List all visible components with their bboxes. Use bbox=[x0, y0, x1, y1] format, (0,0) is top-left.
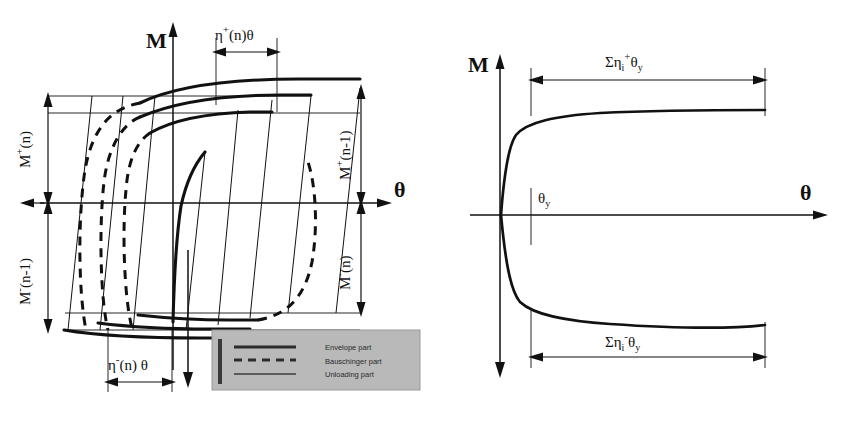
left-m-axis-label: M bbox=[146, 28, 167, 53]
right-vertical-dimensions-left-panel: M+(n-1) M-(n) bbox=[333, 84, 366, 317]
left-panel: M θ bbox=[13, 22, 420, 392]
left-unloading-branches bbox=[68, 88, 360, 330]
dim-arrow-top-right bbox=[267, 48, 281, 57]
dim-arrow-origin-left bbox=[20, 199, 34, 208]
m-plus-n1-label-group: M+(n-1) bbox=[333, 130, 354, 180]
sum-eta-minus-theta-y-label: Σηi-θy bbox=[605, 330, 640, 353]
left-theta-axis-label: θ bbox=[394, 177, 405, 202]
right-dim-arrow-bottom-left bbox=[528, 353, 543, 362]
left-bottom-dimension: η-(n) θ bbox=[104, 330, 176, 392]
envelope-part-rising-core bbox=[173, 152, 205, 322]
eta-plus-top-label: η+(n)θ bbox=[215, 23, 254, 44]
dim-arrow-mpn1-top bbox=[357, 84, 366, 99]
right-m-axis-down-arrowhead bbox=[495, 362, 505, 378]
legend-label-unloading: Unloading part bbox=[325, 370, 375, 379]
dim-arrow-mmn-top bbox=[357, 199, 366, 214]
eta-minus-bottom-label: η-(n) θ bbox=[108, 353, 148, 374]
right-panel: M θ θy Σηi+θy Σηi-θy bbox=[468, 50, 828, 378]
left-extension-lines bbox=[48, 96, 360, 330]
right-dim-arrow-top-left bbox=[528, 76, 543, 85]
dim-arrow-mmn1-top bbox=[44, 199, 53, 214]
right-top-dimension: Σηi+θy bbox=[528, 50, 768, 116]
left-m-axis-arrowhead bbox=[169, 22, 178, 37]
m-minus-n-1-label: M-(n-1) bbox=[13, 258, 34, 305]
dim-arrow-mpn-top bbox=[44, 92, 53, 107]
right-theta-axis-arrowhead bbox=[813, 211, 828, 220]
unloading-part-2 bbox=[100, 96, 123, 330]
unloading-part-5 bbox=[250, 100, 272, 318]
right-m-axis-arrowhead bbox=[496, 54, 505, 69]
legend-label-envelope: Envelope part bbox=[325, 343, 372, 352]
bauschinger-part-3 bbox=[124, 133, 150, 328]
m-plus-n-label-group: M+(n) bbox=[13, 131, 34, 168]
envelope-part-upper-3 bbox=[150, 112, 272, 133]
bauschinger-part-4 bbox=[258, 162, 315, 320]
m-minus-n1-label-group: M-(n-1) bbox=[13, 258, 34, 305]
theta-y-label: θy bbox=[538, 190, 550, 209]
m-plus-n-1-label: M+(n-1) bbox=[333, 130, 354, 180]
dim-arrow-bottom-right bbox=[162, 378, 176, 387]
legend-label-bauschinger: Bauschinger part bbox=[325, 357, 383, 366]
dim-arrow-mmn1-bottom bbox=[44, 319, 53, 334]
bauschinger-part-1 bbox=[80, 103, 140, 330]
dim-arrow-top-left bbox=[212, 48, 226, 57]
left-down-axis-arrowhead bbox=[183, 372, 193, 388]
hysteresis-figure: M θ bbox=[0, 0, 844, 428]
envelope-part-lower-2 bbox=[98, 323, 250, 329]
left-theta-axis-arrowhead bbox=[377, 199, 392, 208]
curve-type-legend: Envelope part Bauschinger part Unloading… bbox=[212, 330, 420, 390]
right-theta-axis-label: θ bbox=[800, 180, 811, 205]
m-plus-n-label: M+(n) bbox=[13, 131, 34, 168]
dim-arrow-mmn-bottom bbox=[357, 302, 366, 317]
legend-background bbox=[212, 330, 420, 390]
right-panel-axes bbox=[470, 54, 828, 378]
unloading-part-4 bbox=[218, 110, 238, 325]
legend-left-bar bbox=[218, 339, 222, 384]
right-dim-arrow-bottom-right bbox=[753, 353, 768, 362]
bauschinger-part-2 bbox=[101, 117, 140, 330]
right-dim-arrow-top-right bbox=[753, 76, 768, 85]
m-minus-n-label: M-(n) bbox=[333, 255, 354, 290]
dim-arrow-bottom-left bbox=[104, 378, 118, 387]
m-minus-n-label-group: M-(n) bbox=[333, 255, 354, 290]
right-envelope-negative bbox=[501, 215, 765, 328]
left-vertical-dimensions: M+(n) M-(n-1) bbox=[13, 92, 53, 334]
envelope-part-lower-3 bbox=[138, 315, 258, 320]
sum-eta-plus-theta-y-label: Σηi+θy bbox=[605, 50, 643, 73]
right-m-axis-label: M bbox=[468, 52, 489, 77]
